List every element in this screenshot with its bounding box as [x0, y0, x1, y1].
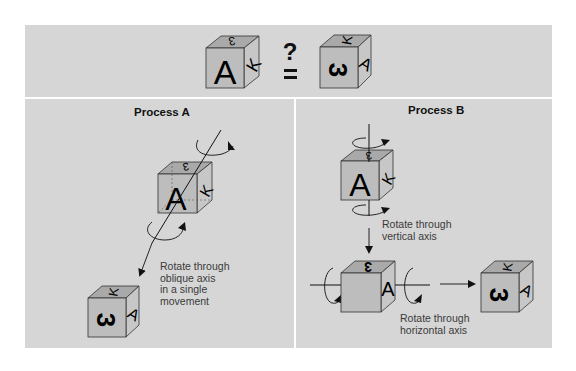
arrowhead-icon: [178, 222, 186, 231]
vertical-axis-caption: Rotate through vertical axis: [382, 219, 451, 242]
process-a-end-cube: 3 K A: [88, 286, 143, 337]
cube-front-letter: A: [214, 53, 237, 91]
process-a-start-cube: A 3 K: [158, 161, 216, 217]
cube-front-letter: A: [165, 181, 187, 217]
rotation-diagram: A 3 K ? 3 K A A 3 K 3 K: [0, 0, 576, 371]
equals-sign-top-bar: [284, 69, 297, 72]
process-b-middle-cube: 3 A: [341, 259, 395, 312]
cube-front-letter: 3: [91, 313, 121, 327]
caption-line: movement: [160, 296, 229, 308]
rotation-arc-icon: [148, 222, 183, 240]
process-b-heading: Process B: [408, 104, 464, 116]
caption-line: vertical axis: [382, 231, 451, 243]
cube-icon-3-front: 3 K A: [320, 33, 376, 88]
question-mark: ?: [283, 38, 298, 65]
caption-line: horizontal axis: [400, 325, 469, 337]
process-a-heading: Process A: [134, 106, 190, 118]
cube-icon-a-front: A 3 K: [206, 34, 265, 91]
caption-line: Rotate through: [160, 261, 229, 273]
rotation-arc-icon: [197, 140, 233, 155]
process-b-start-cube: A 3 K: [341, 150, 398, 203]
cube-side-letter: A: [381, 278, 395, 300]
caption-line: in a single: [160, 284, 229, 296]
process-b-end-cube: 3 K A: [481, 261, 536, 312]
oblique-axis-caption: Rotate through oblique axis in a single …: [160, 261, 229, 307]
cube-top-letter: 3: [364, 259, 372, 275]
arrowhead-icon: [414, 294, 422, 303]
equals-sign-bottom-bar: [284, 76, 297, 79]
horizontal-axis-caption: Rotate through horizontal axis: [400, 313, 469, 336]
cube-front-letter: 3: [323, 63, 353, 77]
cube-front-letter: A: [349, 167, 371, 203]
transition-arrow: [140, 243, 152, 275]
caption-line: Rotate through: [400, 313, 469, 325]
cube-front-letter: 3: [484, 288, 514, 302]
arrowhead-icon: [228, 141, 235, 150]
caption-line: Rotate through: [382, 219, 451, 231]
